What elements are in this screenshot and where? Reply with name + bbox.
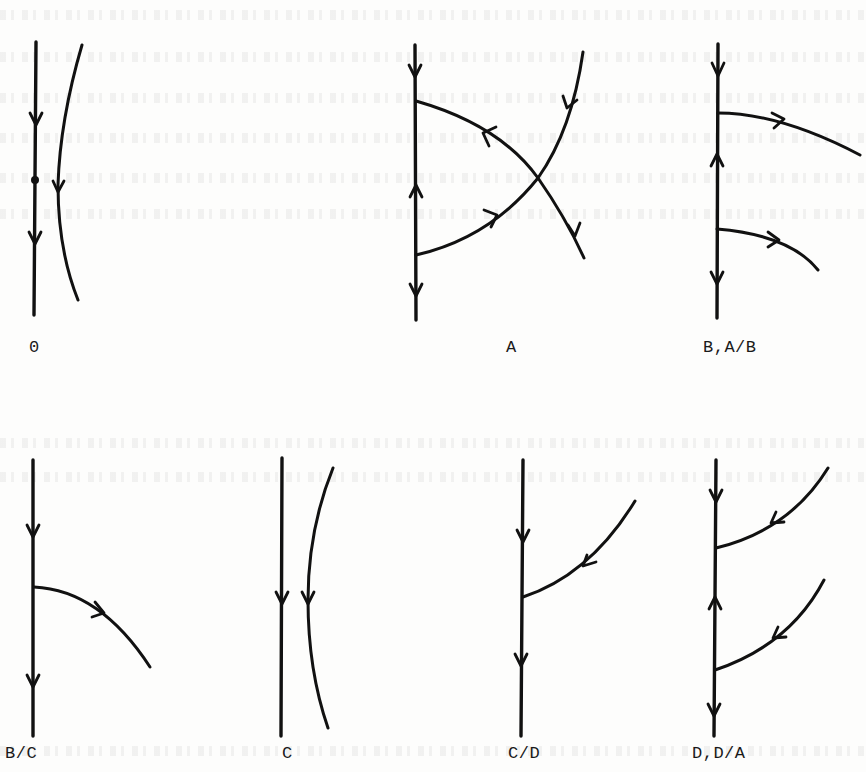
panel-B-AB bbox=[711, 44, 860, 318]
panel-label-A: A bbox=[506, 338, 517, 357]
panel-label-C: C bbox=[282, 744, 293, 763]
trajectory-curve bbox=[523, 501, 635, 597]
trajectory-curve bbox=[715, 580, 824, 670]
trajectory-curve bbox=[718, 113, 860, 155]
trajectory-curve bbox=[716, 468, 828, 548]
separatrix-curve bbox=[416, 101, 584, 258]
arrow-away-icon bbox=[568, 223, 580, 236]
trajectory-curve bbox=[717, 229, 818, 270]
panel-C bbox=[276, 458, 333, 736]
trajectory-curve bbox=[58, 45, 82, 300]
panel-A bbox=[409, 45, 584, 320]
trajectory-curve bbox=[34, 587, 150, 667]
panel-BC bbox=[27, 460, 150, 736]
panel-label-D-DA: D,D/A bbox=[692, 744, 746, 763]
vertical-axis bbox=[281, 458, 282, 736]
panel-label-BC: B/C bbox=[5, 744, 37, 763]
separatrix-curve bbox=[416, 52, 583, 255]
panel-0 bbox=[29, 42, 82, 315]
panel-label-0: 0 bbox=[29, 338, 40, 357]
fixed-point-dot bbox=[31, 176, 39, 184]
panel-CD bbox=[515, 460, 635, 736]
panel-label-CD: C/D bbox=[508, 744, 540, 763]
panel-label-B-AB: B,A/B bbox=[703, 338, 757, 357]
vertical-axis bbox=[717, 44, 718, 318]
phase-portrait-figure bbox=[0, 0, 866, 772]
vertical-axis bbox=[415, 45, 416, 320]
panel-D-DA bbox=[708, 460, 828, 736]
